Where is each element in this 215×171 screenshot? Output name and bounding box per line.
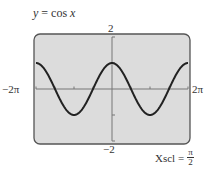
xscl-denominator: 2 <box>188 158 193 167</box>
xmin-label: −2π <box>2 83 19 95</box>
ymax-label: 2 <box>108 22 114 34</box>
xmax-label: 2π <box>192 83 203 95</box>
ymin-label: −2 <box>103 143 115 155</box>
xscl-annotation: Xscl = π 2 <box>155 148 194 167</box>
xscl-label: Xscl = <box>155 152 184 164</box>
xscl-fraction: π 2 <box>187 148 194 167</box>
